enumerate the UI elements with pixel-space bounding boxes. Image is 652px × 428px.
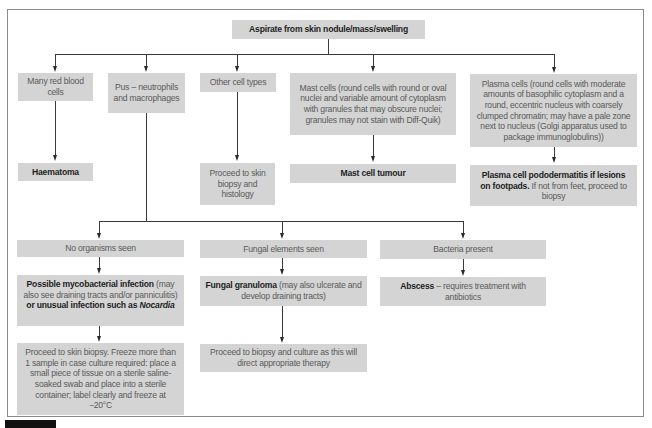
abscess-text: – requires treatment with antibiotics [434,281,526,302]
root-label: Aspirate from skin nodule/mass/swelling [249,24,408,35]
skin-biopsy-freeze-box: Proceed to skin biopsy. Freeze more than… [17,343,184,415]
skin-biopsy-histology-label: Proceed to skin biopsy and histology [203,168,272,200]
arrow-icon [235,155,239,161]
mast-cell-tumour-box: Mast cell tumour [290,164,456,183]
fungal-elements-box: Fungal elements seen [200,240,367,258]
connector-line [282,306,283,338]
no-organisms-box: No organisms seen [17,240,184,257]
arrow-icon [461,233,465,239]
arrow-icon [371,66,375,72]
bacteria-present-label: Bacteria present [433,244,492,255]
mast-cell-tumour-label: Mast cell tumour [340,168,405,179]
connector-line [373,135,374,157]
arrow-icon [280,233,284,239]
arrow-icon [97,336,101,342]
rbc-label: Many red blood cells [21,76,90,97]
skin-biopsy-freeze-label: Proceed to skin biopsy. Freeze more than… [23,347,178,411]
bacteria-present-box: Bacteria present [380,240,546,259]
fungal-elements-label: Fungal elements seen [243,244,324,255]
connector-line [328,39,329,54]
unusual-infection-bold: or unusual infection such as [26,300,139,310]
root-box: Aspirate from skin nodule/mass/swelling [232,20,425,39]
connector-line [55,101,56,156]
arrow-icon [53,66,57,72]
arrow-icon [235,66,239,72]
figure-label-bar [5,420,56,428]
arrow-icon [371,156,375,162]
other-cells-label: Other cell types [210,77,267,88]
mast-cells-label: Mast cells (round cells with round or ov… [294,83,452,125]
skin-biopsy-histology-box: Proceed to skin biopsy and histology [200,163,275,205]
fungal-granuloma-box: Fungal granuloma (may also ulcerate and … [200,276,367,306]
arrow-icon [97,268,101,274]
haematoma-box: Haematoma [18,163,93,181]
biopsy-culture-label: Proceed to biopsy and culture as this wi… [208,347,359,368]
abscess-box: Abscess – requires treatment with antibi… [380,277,546,306]
pus-box: Pus – neutrophils and macrophages [108,73,185,113]
biopsy-culture-box: Proceed to biopsy and culture as this wi… [200,344,367,372]
plasma-cells-label: Plasma cells (round cells with moderate … [474,79,633,143]
arrow-icon [97,233,101,239]
mast-cells-box: Mast cells (round cells with round or ov… [290,73,456,135]
connector-line [55,54,555,55]
nocardia-italic: Nocardia [139,300,174,310]
arrow-icon [280,269,284,275]
arrow-icon [552,157,556,163]
connector-line [146,113,147,221]
mycobacterial-bold: Possible mycobacterial infection [27,279,154,289]
fungal-granuloma-bold: Fungal granuloma [205,280,276,290]
other-cells-box: Other cell types [200,73,276,92]
no-organisms-label: No organisms seen [65,243,136,254]
arrow-icon [280,337,284,343]
haematoma-label: Haematoma [32,167,79,178]
plasma-pododermatitis-text: If not from feet, proceed to biopsy [529,181,626,202]
arrow-icon [461,270,465,276]
connector-line [554,54,555,68]
pus-label: Pus – neutrophils and macrophages [111,82,182,103]
plasma-pododermatitis-box: Plasma cell pododermatitis if lesions on… [470,165,637,206]
arrow-icon [53,155,57,161]
arrow-icon [144,66,148,72]
mycobacterial-box: Possible mycobacterial infection (may al… [17,275,184,326]
connector-line [237,92,238,156]
abscess-bold: Abscess [400,281,434,291]
plasma-cells-box: Plasma cells (round cells with moderate … [470,74,637,147]
rbc-box: Many red blood cells [18,73,93,101]
arrow-icon [552,67,556,73]
